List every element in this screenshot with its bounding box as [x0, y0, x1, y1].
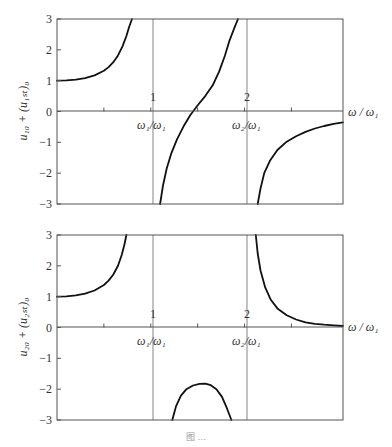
y-tick-label: −3	[39, 413, 52, 427]
omega1-marker-label: ω₁/ω₁	[137, 118, 166, 132]
y-axis-label: u₂₀ + (u₂ₛₜ)₀	[16, 298, 30, 357]
top-plot: 3210−1−2−3 1 2 ω₁/ω₁ ω₂/ω₁ ω / ω₁ u₁₀ + …	[16, 12, 378, 211]
curve-branch-1	[57, 235, 126, 297]
y-tick-label: 1	[46, 74, 52, 88]
omega2-marker-label: ω₂/ω₁	[232, 334, 261, 348]
x-axis-label: ω / ω₁	[348, 105, 378, 119]
curve-branch-3	[256, 235, 343, 326]
y-tick-label: 3	[46, 12, 52, 26]
y-ticks: 3210−1−2−3	[39, 12, 61, 211]
y-tick-label: −3	[39, 197, 52, 211]
y-tick-label: −2	[39, 166, 52, 180]
y-axis-label: u₁₀ + (u₁ₛₜ)₀	[16, 82, 30, 141]
y-tick-label: 0	[46, 105, 52, 119]
curve-branch-1	[57, 19, 132, 81]
y-tick-label: 1	[46, 290, 52, 304]
y-tick-label: 2	[46, 43, 52, 57]
x-tick-label-1: 1	[150, 307, 156, 321]
bottom-plot: 3210−1−2−3 1 2 ω₁/ω₁ ω₂/ω₁ ω / ω₁ u₂₀ + …	[16, 228, 378, 427]
y-tick-label: −1	[39, 351, 52, 365]
y-tick-label: 0	[46, 321, 52, 335]
x-tick-label-2: 2	[244, 307, 250, 321]
y-tick-label: −1	[39, 135, 52, 149]
x-tick-label-2: 2	[244, 90, 250, 104]
x-axis-label: ω / ω₁	[348, 320, 378, 334]
figure: 3210−1−2−3 1 2 ω₁/ω₁ ω₂/ω₁ ω / ω₁ u₁₀ + …	[0, 0, 392, 447]
y-tick-label: 3	[46, 228, 52, 242]
curve-branch-3	[258, 122, 343, 204]
y-tick-label: 2	[46, 259, 52, 273]
curve-branch-2	[172, 384, 231, 420]
y-tick-label: −2	[39, 382, 52, 396]
omega1-marker-label: ω₁/ω₁	[137, 334, 166, 348]
omega2-marker-label: ω₂/ω₁	[232, 118, 261, 132]
y-ticks: 3210−1−2−3	[39, 228, 61, 427]
figure-caption: 图 …	[186, 432, 207, 442]
x-tick-label-1: 1	[150, 90, 156, 104]
